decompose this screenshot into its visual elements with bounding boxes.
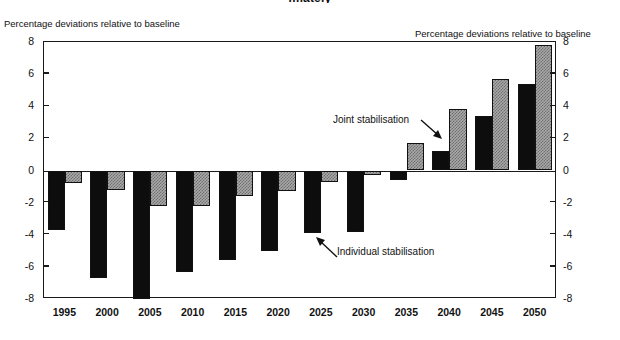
y-axis-tick-label-right: 6 — [563, 68, 589, 78]
annotation-joint-stabilisation: Joint stabilisation — [333, 114, 409, 125]
bar-joint-2045[interactable] — [492, 79, 509, 171]
y-axis-tick-label-left: 0 — [8, 165, 34, 175]
y-axis-tick-label-right: 4 — [563, 100, 589, 110]
y-axis-tick-mark — [550, 72, 556, 73]
bar-individual-2035[interactable] — [390, 171, 407, 181]
y-axis-tick-mark — [550, 201, 556, 202]
bar-joint-2005[interactable] — [150, 171, 167, 206]
y-axis-tick-mark — [43, 265, 49, 266]
y-axis-tick-label-left: -8 — [8, 293, 34, 303]
x-axis-tick-label: 2035 — [383, 306, 429, 318]
bar-individual-2020[interactable] — [261, 171, 278, 251]
x-axis-tick-label: 2010 — [170, 306, 216, 318]
bar-individual-2015[interactable] — [219, 171, 236, 261]
y-axis-tick-label-right: -8 — [563, 293, 589, 303]
y-axis-tick-label-left: -2 — [8, 197, 34, 207]
y-axis-tick-mark — [43, 233, 49, 234]
bar-individual-2040[interactable] — [432, 151, 449, 170]
y-axis-tick-mark — [550, 233, 556, 234]
y-axis-tick-mark — [43, 72, 49, 73]
bar-joint-2035[interactable] — [407, 143, 424, 170]
bar-individual-1995[interactable] — [48, 171, 65, 230]
x-axis-tick-label: 2025 — [298, 306, 344, 318]
bar-individual-2010[interactable] — [176, 171, 193, 272]
y-axis-tick-label-right: -2 — [563, 197, 589, 207]
bar-individual-2050[interactable] — [518, 84, 535, 171]
bar-joint-2030[interactable] — [364, 171, 381, 176]
y-axis-tick-label-right: 0 — [563, 165, 589, 175]
x-axis-tick-label: 2015 — [212, 306, 258, 318]
x-axis-tick-label: 2000 — [84, 306, 130, 318]
y-axis-tick-label-right: -4 — [563, 229, 589, 239]
y-axis-tick-mark — [43, 201, 49, 202]
x-axis-tick-label: 2005 — [127, 306, 173, 318]
x-axis-tick-label: 2050 — [512, 306, 558, 318]
page-title: imately — [0, 0, 620, 3]
y-axis-tick-mark — [550, 265, 556, 266]
bar-individual-2025[interactable] — [304, 171, 321, 234]
bar-joint-2020[interactable] — [278, 171, 295, 192]
bar-individual-2000[interactable] — [90, 171, 107, 279]
bar-joint-2040[interactable] — [449, 109, 466, 170]
x-axis-tick-label: 2020 — [255, 306, 301, 318]
bar-individual-2005[interactable] — [133, 171, 150, 300]
bar-joint-2050[interactable] — [535, 45, 552, 170]
bar-individual-2045[interactable] — [475, 116, 492, 171]
x-axis-tick-label: 1995 — [41, 306, 87, 318]
x-axis-tick-label: 2045 — [469, 306, 515, 318]
y-axis-tick-label-left: 6 — [8, 68, 34, 78]
y-axis-tick-label-left: 2 — [8, 132, 34, 142]
bar-joint-2010[interactable] — [193, 171, 210, 206]
annotation-individual-stabilisation: Individual stabilisation — [337, 246, 434, 257]
y-axis-tick-mark — [43, 105, 49, 106]
left-axis-caption: Percentage deviations relative to baseli… — [4, 18, 180, 29]
y-axis-tick-label-right: 2 — [563, 132, 589, 142]
bar-joint-2015[interactable] — [236, 171, 253, 197]
y-axis-tick-label-left: 4 — [8, 100, 34, 110]
x-axis-tick-label: 2030 — [341, 306, 387, 318]
plot-area — [43, 41, 556, 298]
bar-joint-1995[interactable] — [65, 171, 82, 183]
y-axis-tick-label-left: -4 — [8, 229, 34, 239]
y-axis-tick-label-left: -6 — [8, 261, 34, 271]
y-axis-tick-label-left: 8 — [8, 36, 34, 46]
bar-joint-2000[interactable] — [107, 171, 124, 190]
bar-individual-2030[interactable] — [347, 171, 364, 232]
y-axis-tick-mark — [43, 137, 49, 138]
y-axis-tick-mark — [550, 137, 556, 138]
bar-joint-2025[interactable] — [321, 171, 338, 182]
y-axis-tick-label-right: 8 — [563, 36, 589, 46]
y-axis-tick-mark — [550, 105, 556, 106]
y-axis-tick-label-right: -6 — [563, 261, 589, 271]
x-axis-tick-label: 2040 — [426, 306, 472, 318]
